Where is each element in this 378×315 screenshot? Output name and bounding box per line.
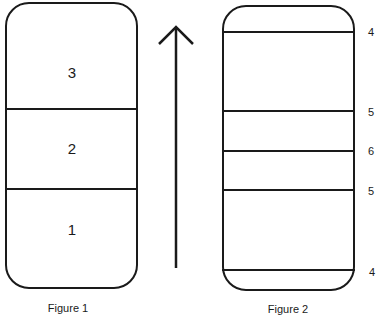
figure-2-line-1 [222, 31, 355, 33]
figure-2-line-4 [222, 189, 355, 191]
figure-2-line-2-label: 5 [368, 106, 374, 118]
figure-2-line-3-label: 6 [368, 145, 374, 157]
figure-2-line-5 [222, 269, 355, 271]
figure-2-line-3 [222, 150, 355, 152]
figure-2-container [222, 5, 355, 291]
figure-2-line-2 [222, 110, 355, 112]
figure-2-line-1-label: 4 [368, 26, 374, 38]
figure-2-caption: Figure 2 [268, 303, 308, 315]
figure-2-line-5-label: 4 [369, 266, 375, 278]
figure-2-line-4-label: 5 [368, 185, 374, 197]
